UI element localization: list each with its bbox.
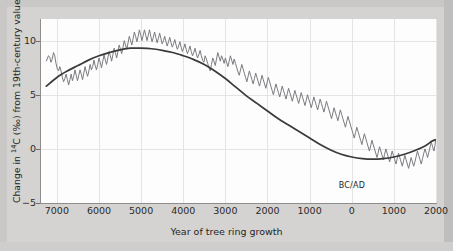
x-tick-label: 7000 <box>37 206 77 216</box>
x-tick-label: 1000 <box>290 206 330 216</box>
x-tick-label: 0 <box>332 206 372 216</box>
x-axis-line <box>40 203 437 204</box>
y-axis-title-prefix: Change in <box>11 153 22 203</box>
series-measured-14c <box>46 30 435 169</box>
series-smoothed-trend <box>46 48 435 159</box>
x-tick-label: 1000 <box>374 206 414 216</box>
y-axis-title-suffix: C (‰) from 19th-century value <box>11 0 22 145</box>
y-tick-mark <box>36 41 40 42</box>
y-tick-mark <box>36 95 40 96</box>
bc-ad-annotation: BC/AD <box>339 181 365 190</box>
x-tick-label: 6000 <box>79 206 119 216</box>
page-edge-left <box>0 0 7 251</box>
isotope-superscript: 14 <box>10 145 18 153</box>
x-tick-label: 2000 <box>247 206 287 216</box>
chart-plot-svg <box>40 19 436 203</box>
x-tick-label: 3000 <box>205 206 245 216</box>
y-tick-mark <box>36 203 40 204</box>
x-tick-label: 5000 <box>121 206 161 216</box>
y-axis-title: Change in 14C (‰) from 19th-century valu… <box>10 13 22 203</box>
x-axis-title: Year of tree ring growth <box>0 226 453 237</box>
x-tick-label: 4000 <box>163 206 203 216</box>
x-tick-label: 2000 <box>416 206 453 216</box>
page-edge-bottom <box>0 242 453 251</box>
gridline-vertical <box>436 19 437 203</box>
page-edge-top <box>0 0 453 7</box>
y-tick-mark <box>36 149 40 150</box>
figure-container: 1050−5 700060005000400030002000100001000… <box>0 0 453 251</box>
